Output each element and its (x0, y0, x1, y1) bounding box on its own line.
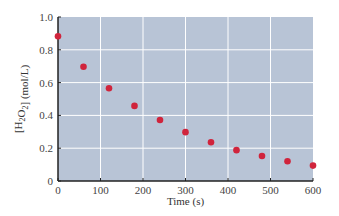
data-point (55, 33, 62, 40)
data-point (157, 117, 164, 124)
data-point (310, 162, 317, 169)
y-axis-label: [H2O2] (mol/L) (12, 65, 31, 134)
x-tick-label: 400 (220, 184, 237, 196)
data-point (233, 147, 240, 154)
x-tick-label: 100 (92, 184, 109, 196)
chart: 0100200300400500600 00.20.40.60.81.0 Tim… (0, 0, 339, 216)
data-point (284, 158, 291, 165)
x-tick-label: 200 (135, 184, 152, 196)
x-tick-label: 500 (262, 184, 279, 196)
y-tick-label: 0.4 (39, 109, 53, 121)
y-tick-label: 0.2 (39, 142, 53, 154)
x-axis-label: Time (s) (167, 195, 205, 208)
data-point (208, 139, 215, 146)
data-point (182, 129, 189, 136)
y-tick-label: 0.6 (39, 77, 53, 89)
data-point (259, 153, 266, 160)
y-tick-label: 0 (48, 175, 54, 187)
data-point (106, 85, 113, 92)
x-tick-label: 0 (55, 184, 61, 196)
y-tick-label: 1.0 (39, 11, 53, 23)
x-tick-label: 600 (305, 184, 322, 196)
data-point (80, 63, 87, 70)
y-tick-label: 0.8 (39, 44, 53, 56)
data-point (131, 103, 138, 110)
